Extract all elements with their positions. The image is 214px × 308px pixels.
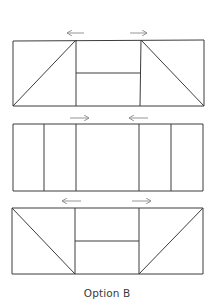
middle-panel [13,124,203,191]
bottom-panel [12,208,203,274]
top-panel-diagonal-right [141,40,204,106]
top-panel-diagonal-left [13,40,76,106]
diagram-caption: Option B [0,287,214,299]
top-panel-divider-right [140,40,141,106]
top-panel [13,40,204,106]
middle-panel-outline [13,124,203,191]
option-diagram [0,0,214,308]
bottom-panel-diagonal-left [12,208,75,274]
bottom-panel-diagonal-right [139,208,203,274]
